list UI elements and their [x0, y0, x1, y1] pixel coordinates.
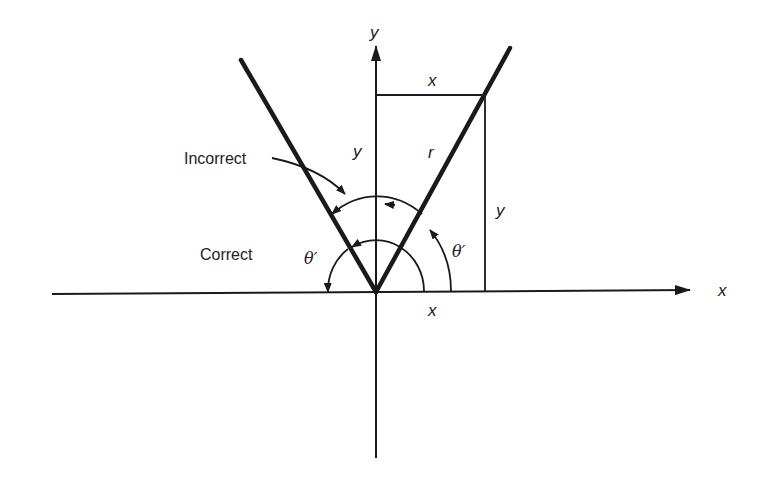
incorrect-arc-mid-arrow [385, 204, 395, 205]
r-label: r [428, 143, 435, 162]
x-axis-label: x [717, 281, 727, 300]
reference-angle-diagram: Incorrect Correct θ′ θ′ r x x y y y x [0, 0, 767, 490]
theta-arc-right [430, 230, 451, 292]
incorrect-label: Incorrect [184, 150, 247, 167]
rect-top-x-label: x [427, 71, 437, 90]
rect-left-y-label: y [352, 142, 363, 161]
theta-left-label: θ′ [304, 249, 318, 268]
rect-right-y-label: y [495, 201, 506, 220]
theta-right-label: θ′ [452, 242, 466, 261]
theta-arc-left [328, 249, 348, 292]
rect-bottom-x-label: x [427, 301, 437, 320]
correct-label: Correct [200, 246, 253, 263]
y-axis-label: y [369, 23, 380, 42]
terminal-ray-right [376, 48, 510, 292]
x-axis [52, 290, 690, 294]
